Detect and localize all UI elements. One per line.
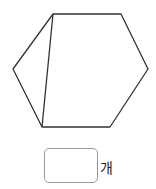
hexagon-outline bbox=[13, 14, 148, 127]
hexagon-figure bbox=[0, 0, 156, 140]
unit-label: 개 bbox=[100, 160, 113, 176]
diagonal-line bbox=[42, 14, 53, 127]
answer-input-box[interactable] bbox=[44, 148, 98, 183]
